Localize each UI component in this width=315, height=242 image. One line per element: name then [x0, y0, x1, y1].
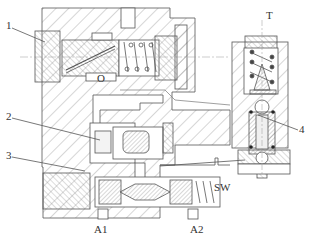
- part-label-4: 4: [299, 124, 305, 135]
- end-cap: [35, 31, 60, 82]
- port-label-sw: SW: [214, 182, 231, 193]
- pilot-poppet: [123, 131, 149, 153]
- port-label-a1: A1: [94, 224, 107, 235]
- part-label-2: 2: [6, 111, 12, 122]
- port-label-a2: A2: [190, 224, 203, 235]
- part-label-3: 3: [6, 150, 12, 161]
- valve-drawing: [0, 0, 315, 242]
- port-label-o: O: [97, 73, 105, 84]
- port-label-t: T: [266, 10, 273, 21]
- part-label-1: 1: [6, 20, 12, 31]
- valve-diagram: 1 2 3 4 O T SW A1 A2: [0, 0, 315, 242]
